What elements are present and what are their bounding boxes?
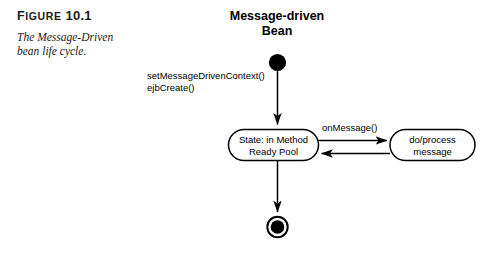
state-method-ready-pool-line-1: State: in Method	[239, 134, 308, 145]
transition-on-message-label: onMessage()	[322, 122, 377, 133]
transition-create-label-line-2: ejbCreate()	[147, 82, 195, 93]
state-process-message-line-2: message	[413, 146, 452, 157]
state-diagram-canvas: setMessageDrivenContext() ejbCreate() St…	[0, 0, 497, 253]
state-method-ready-pool-line-2: Ready Pool	[249, 146, 298, 157]
transition-create-label-line-1: setMessageDrivenContext()	[147, 70, 265, 81]
initial-state	[269, 54, 286, 71]
final-state-core	[271, 220, 285, 234]
figure-container: FIGURE10.1 The Message-Driven bean life …	[0, 0, 497, 253]
state-process-message-line-1: do/process	[409, 134, 456, 145]
